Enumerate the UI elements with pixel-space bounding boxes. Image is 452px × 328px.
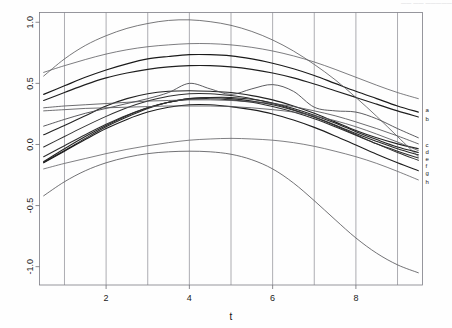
series-label-b: b <box>426 116 430 122</box>
y-tick-label: 1.0 <box>25 16 35 29</box>
series-label-g: g <box>426 170 429 176</box>
axis-ticks <box>36 22 356 289</box>
x-tick-label: 2 <box>104 293 109 303</box>
series-label-f: f <box>426 163 428 169</box>
x-tick-label: 4 <box>187 293 192 303</box>
y-tick-label: 0.0 <box>25 138 35 151</box>
x-axis-tick-labels: 2468 <box>104 293 359 303</box>
y-tick-label: -1.0 <box>25 259 35 275</box>
series-label-a: a <box>426 107 430 113</box>
gridlines <box>64 13 397 286</box>
series-label-c: c <box>426 142 429 148</box>
x-tick-label: 6 <box>270 293 275 303</box>
x-tick-label: 8 <box>353 293 358 303</box>
series-label-h: h <box>426 179 429 185</box>
chart-page: —— —— ————— -1.0-0.50.00.51.0 2468 abcde… <box>0 0 452 328</box>
series-end-labels: abcdefgh <box>426 107 430 185</box>
series-label-d: d <box>426 149 429 155</box>
y-tick-label: -0.5 <box>25 198 35 214</box>
line-chart: -1.0-0.50.00.51.0 2468 abcdefgh t <box>0 0 452 328</box>
series-label-e: e <box>426 156 430 162</box>
x-axis-title: t <box>230 311 233 322</box>
y-tick-label: 0.5 <box>25 77 35 90</box>
y-axis-tick-labels: -1.0-0.50.00.51.0 <box>25 16 35 274</box>
